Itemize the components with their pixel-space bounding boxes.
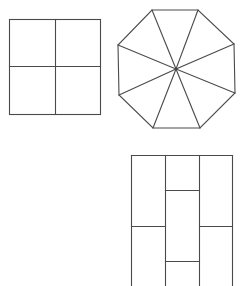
- octagon-spoke: [176, 44, 234, 69]
- square-divided-into-four: [10, 20, 101, 115]
- rectangle-brick-pattern: [132, 156, 233, 286]
- geometry-figure: [0, 0, 241, 286]
- octagon-divided-into-eight: [118, 10, 235, 128]
- octagon-spoke: [176, 10, 198, 69]
